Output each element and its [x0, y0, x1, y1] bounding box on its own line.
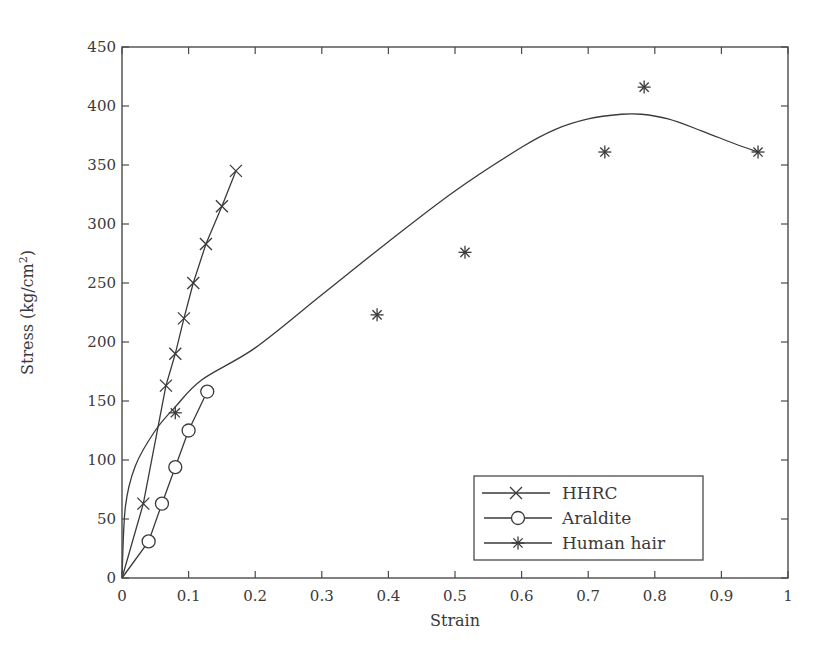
x-tick-label: 0: [117, 587, 127, 605]
x-tick-label: 0.8: [643, 587, 667, 605]
x-tick-label: 1: [783, 587, 793, 605]
y-tick-label: 450: [87, 38, 116, 56]
x-tick-label: 0.7: [576, 587, 600, 605]
data-point: [178, 312, 190, 324]
data-point: [216, 200, 228, 212]
stress-strain-chart: 00.10.20.30.40.50.60.70.80.9105010015020…: [0, 0, 835, 661]
data-point: [458, 246, 471, 259]
y-tick-label: 50: [97, 510, 116, 528]
x-axis-title: Strain: [430, 611, 480, 630]
x-tick-label: 0.3: [310, 587, 334, 605]
y-tick-label: 150: [87, 392, 116, 410]
x-tick-label: 0.2: [243, 587, 267, 605]
x-tick-label: 0.6: [510, 587, 534, 605]
y-axis-title: Stress (kg/cm2): [17, 250, 37, 375]
data-point: [187, 277, 199, 289]
data-point: [169, 406, 182, 419]
data-point: [160, 380, 172, 392]
legend-label-human-hair: Human hair: [562, 533, 666, 553]
x-tick-label: 0.4: [376, 587, 400, 605]
asterisk-marker-icon: [512, 537, 525, 550]
data-point: [155, 497, 168, 510]
y-tick-label: 400: [87, 97, 116, 115]
data-point: [598, 146, 611, 159]
data-point: [230, 165, 242, 177]
legend: HHRC Araldite Human hair: [474, 476, 703, 560]
legend-label-hhrc: HHRC: [562, 483, 617, 503]
data-point: [200, 238, 212, 250]
y-tick-label: 250: [87, 274, 116, 292]
series-hhrc: [122, 165, 242, 578]
data-point: [638, 81, 651, 94]
data-point: [142, 535, 155, 548]
y-tick-label: 300: [87, 215, 116, 233]
y-tick-label: 0: [106, 569, 116, 587]
legend-label-araldite: Araldite: [561, 508, 631, 528]
y-tick-label: 100: [87, 451, 116, 469]
y-tick-label: 200: [87, 333, 116, 351]
circle-marker-icon: [512, 512, 525, 525]
data-point: [169, 461, 182, 474]
data-point: [182, 424, 195, 437]
y-tick-label: 350: [87, 156, 116, 174]
data-point: [371, 308, 384, 321]
x-tick-label: 0.1: [177, 587, 201, 605]
data-point: [752, 146, 765, 159]
data-point: [201, 385, 214, 398]
x-tick-label: 0.5: [443, 587, 467, 605]
data-point: [137, 498, 149, 510]
x-tick-label: 0.9: [709, 587, 733, 605]
data-point: [169, 348, 181, 360]
